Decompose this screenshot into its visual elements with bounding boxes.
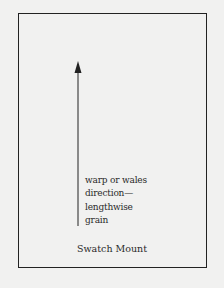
grain-direction-label: warp or wales direction— lengthwise grai… [85, 174, 147, 227]
label-line: lengthwise [85, 201, 147, 214]
label-line: warp or wales [85, 174, 147, 187]
frame-title: Swatch Mount [0, 243, 224, 254]
label-line: direction— [85, 187, 147, 200]
label-line: grain [85, 214, 147, 227]
